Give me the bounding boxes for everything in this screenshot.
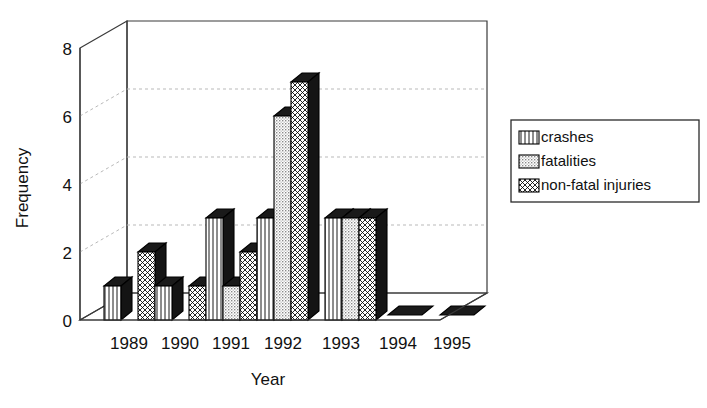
legend: crashes fatalities non-fatal injuries bbox=[511, 120, 699, 202]
x-tick-1989: 1989 bbox=[110, 334, 148, 353]
y-tick-8: 8 bbox=[63, 40, 72, 59]
x-tick-1991: 1991 bbox=[212, 334, 250, 353]
bar-chart-3d: 0 2 4 6 8 Frequency 1989 1990 1991 1992 … bbox=[0, 0, 707, 408]
bar-group-1992 bbox=[257, 73, 319, 320]
legend-item-fatalities[interactable]: fatalities bbox=[519, 152, 596, 169]
legend-swatch-nonfatal bbox=[519, 179, 539, 192]
legend-item-crashes[interactable]: crashes bbox=[519, 128, 594, 145]
gridline-left-2 bbox=[80, 225, 127, 252]
legend-label-fatalities: fatalities bbox=[541, 152, 596, 169]
x-tick-1993: 1993 bbox=[322, 334, 360, 353]
bar-1990-crashes bbox=[155, 277, 183, 320]
bar-1989-crashes bbox=[104, 277, 132, 320]
bar-1994-zero bbox=[388, 306, 433, 315]
legend-swatch-fatalities bbox=[519, 155, 539, 168]
legend-label-nonfatal: non-fatal injuries bbox=[541, 176, 651, 193]
bar-1992-nonfatal bbox=[291, 73, 319, 320]
gridline-left-4 bbox=[80, 157, 127, 184]
x-tick-1992: 1992 bbox=[264, 334, 302, 353]
y-axis-title: Frequency bbox=[13, 147, 32, 228]
x-tick-1994: 1994 bbox=[379, 334, 417, 353]
y-tick-6: 6 bbox=[63, 108, 72, 127]
bar-group-1994 bbox=[388, 306, 433, 315]
x-tick-1990: 1990 bbox=[161, 334, 199, 353]
left-wall bbox=[80, 21, 127, 320]
legend-label-crashes: crashes bbox=[541, 128, 594, 145]
legend-swatch-crashes bbox=[519, 131, 539, 144]
chart-figure: 0 2 4 6 8 Frequency 1989 1990 1991 1992 … bbox=[0, 0, 707, 408]
gridline-left-6 bbox=[80, 89, 127, 116]
y-tick-0: 0 bbox=[63, 312, 72, 331]
x-tick-1995: 1995 bbox=[433, 334, 471, 353]
y-tick-2: 2 bbox=[63, 244, 72, 263]
bar-1993-nonfatal bbox=[359, 209, 387, 320]
x-axis-title: Year bbox=[251, 370, 286, 389]
legend-item-nonfatal[interactable]: non-fatal injuries bbox=[519, 176, 651, 193]
y-tick-4: 4 bbox=[63, 176, 72, 195]
bar-group-1993 bbox=[325, 209, 387, 320]
